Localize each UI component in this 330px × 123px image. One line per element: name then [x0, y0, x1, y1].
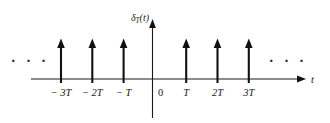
impulse-2T — [214, 39, 222, 84]
impulse-arrowhead — [214, 39, 222, 49]
ellipsis-left: · · · — [11, 53, 50, 69]
tick-label--2T: − 2T — [82, 87, 104, 98]
impulse-arrowhead — [89, 39, 97, 49]
tick-label--3T: − 3T — [51, 87, 73, 98]
impulse-arrowhead — [120, 39, 128, 49]
tick-label-2T: 2T — [212, 87, 224, 98]
tick-label-3T: 3T — [242, 87, 255, 98]
y-axis-arrowhead — [149, 19, 156, 28]
figure-canvas: − 3T − 2T − T 0 T 2T 3T t δT(t) · · · · … — [0, 0, 330, 123]
y-axis-group — [149, 19, 156, 118]
impulse--3T — [57, 39, 65, 84]
tick-label-0: 0 — [158, 87, 163, 98]
tick-label--T: − T — [116, 87, 133, 98]
impulse--T — [120, 39, 128, 84]
impulse-3T — [245, 39, 253, 84]
impulse-train-group — [57, 39, 252, 84]
x-axis-arrowhead — [297, 76, 306, 83]
impulse-arrowhead — [245, 39, 253, 49]
ellipsis-right: · · · — [269, 53, 308, 69]
tick-label-T: T — [183, 87, 190, 98]
impulse-arrowhead — [182, 39, 190, 49]
y-axis-label-argument: (t) — [140, 12, 150, 24]
x-axis-group — [31, 76, 306, 83]
x-axis-label: t — [311, 74, 315, 85]
y-axis-label-group: δT(t) — [131, 12, 150, 25]
impulse-T — [182, 39, 190, 84]
impulse-train-figure: − 3T − 2T − T 0 T 2T 3T t δT(t) · · · · … — [0, 0, 330, 123]
svg-text:δT(t): δT(t) — [131, 12, 150, 25]
impulse--2T — [89, 39, 97, 84]
impulse-arrowhead — [57, 39, 65, 49]
